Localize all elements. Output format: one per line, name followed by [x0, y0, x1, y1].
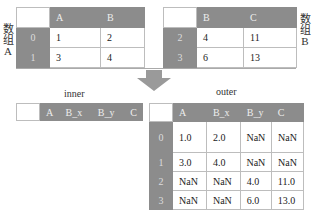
cell: NaN: [173, 172, 207, 191]
table-row: 3 NaN NaN 6.0 13.0: [150, 191, 304, 210]
cell: NaN: [173, 191, 207, 210]
row-index: 3: [164, 48, 197, 68]
column-header: C: [124, 104, 143, 121]
table-a-label: 数 组 A: [2, 24, 14, 57]
header-row: A B_x B_y C: [17, 104, 143, 121]
table-row: 0 1.0 2.0 NaN NaN: [150, 122, 304, 153]
corner-cell: [150, 104, 173, 122]
down-arrow-icon: [136, 70, 172, 92]
row-index: 2: [164, 28, 197, 48]
column-header: A: [173, 104, 207, 122]
cell: NaN: [271, 122, 303, 153]
cell: 3.0: [173, 153, 207, 172]
cell: 11: [244, 28, 297, 48]
inner-table: A B_x B_y C: [16, 103, 143, 121]
cell: 2.0: [206, 122, 240, 153]
label-char: A: [2, 46, 14, 57]
cell: NaN: [206, 172, 240, 191]
column-header: B_y: [240, 104, 271, 122]
corner-cell: [17, 104, 40, 121]
cell: NaN: [206, 191, 240, 210]
table-row: 2 NaN NaN 4.0 11.0: [150, 172, 304, 191]
column-header: B_y: [91, 104, 123, 121]
row-index: 1: [17, 48, 50, 68]
cell: NaN: [240, 153, 271, 172]
header-row: B C: [164, 8, 297, 28]
cell: 4.0: [240, 172, 271, 191]
cell: 4: [197, 28, 244, 48]
cell: 3: [50, 48, 101, 68]
column-header: B: [197, 8, 244, 28]
table-row: 1 3.0 4.0 NaN NaN: [150, 153, 304, 172]
column-header: C: [244, 8, 297, 28]
cell: 2: [101, 28, 145, 48]
header-row: A B_x B_y C: [150, 104, 304, 122]
cell: 4.0: [206, 153, 240, 172]
header-row: A B: [17, 8, 145, 28]
cell: 6: [197, 48, 244, 68]
cell: 1: [50, 28, 101, 48]
column-header: A: [50, 8, 101, 28]
outer-table: A B_x B_y C 0 1.0 2.0 NaN NaN 1 3.0 4.0 …: [149, 103, 304, 210]
row-index: 2: [150, 172, 173, 191]
table-row: 0 1 2: [17, 28, 145, 48]
column-header: B_x: [59, 104, 91, 121]
cell: 4: [101, 48, 145, 68]
table-row: 2 4 11: [164, 28, 297, 48]
row-index: 0: [150, 122, 173, 153]
table-row: 3 6 13: [164, 48, 297, 68]
table-b: B C 2 4 11 3 6 13: [163, 7, 297, 68]
column-header: C: [271, 104, 303, 122]
label-char: B: [299, 36, 311, 47]
corner-cell: [17, 8, 50, 28]
table-a: A B 0 1 2 1 3 4: [16, 7, 145, 68]
column-header: A: [40, 104, 59, 121]
cell: NaN: [271, 153, 303, 172]
inner-caption: inner: [64, 88, 85, 99]
cell: 13: [244, 48, 297, 68]
divider-line: [16, 68, 296, 69]
column-header: B: [101, 8, 145, 28]
table-b-label: 数 组 B: [299, 14, 311, 47]
column-header: B_x: [206, 104, 240, 122]
outer-caption: outer: [216, 86, 237, 97]
row-index: 0: [17, 28, 50, 48]
corner-cell: [164, 8, 197, 28]
table-row: 1 3 4: [17, 48, 145, 68]
cell: 13.0: [271, 191, 303, 210]
row-index: 3: [150, 191, 173, 210]
cell: 1.0: [173, 122, 207, 153]
cell: 11.0: [271, 172, 303, 191]
cell: 6.0: [240, 191, 271, 210]
cell: NaN: [240, 122, 271, 153]
row-index: 1: [150, 153, 173, 172]
